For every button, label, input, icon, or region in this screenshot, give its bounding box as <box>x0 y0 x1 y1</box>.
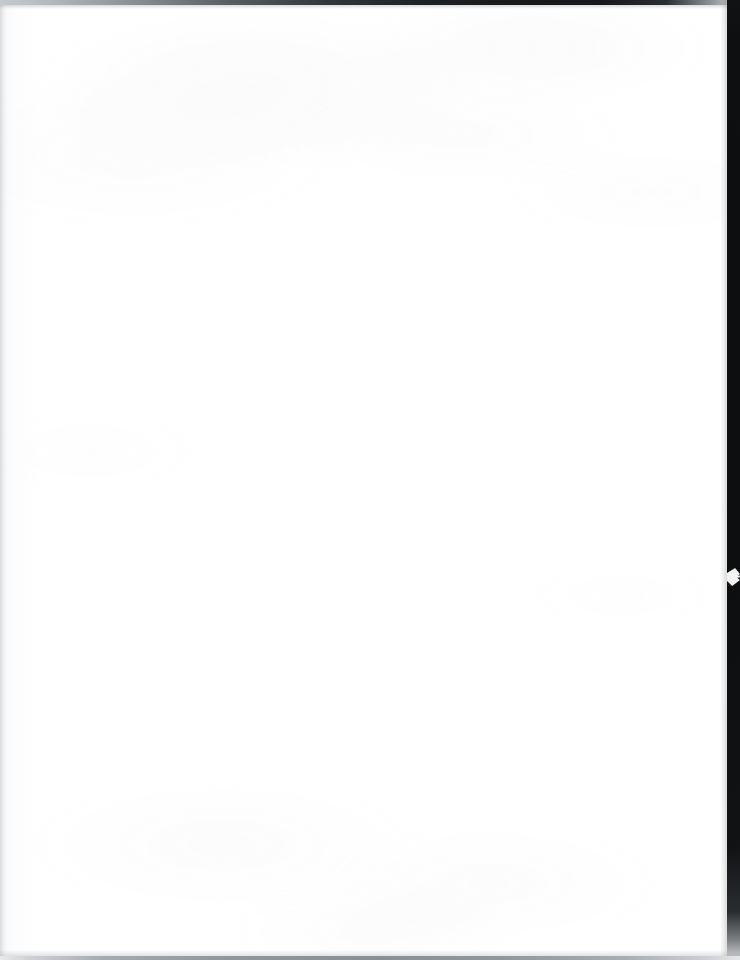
page-body-text <box>9 9 10 10</box>
bottom-scan-edge <box>0 956 740 960</box>
left-margin-shade <box>0 0 9 960</box>
right-scan-edge <box>727 0 740 960</box>
right-scan-edge-feather <box>720 0 727 960</box>
top-scan-edge <box>0 0 740 5</box>
page-content-area <box>9 9 720 950</box>
top-scan-edge-feather <box>0 5 740 9</box>
scanned-page <box>0 0 740 960</box>
